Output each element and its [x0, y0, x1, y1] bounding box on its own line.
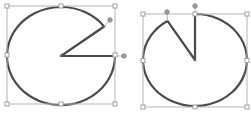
resize-handle-n[interactable]: [193, 12, 197, 16]
angle-adjust-handle[interactable]: [108, 18, 112, 22]
resize-handle-nw[interactable]: [5, 4, 9, 8]
pie-shape-left[interactable]: [5, 4, 126, 106]
resize-handle-nw[interactable]: [141, 12, 145, 16]
resize-handle-ne[interactable]: [245, 12, 249, 16]
angle-adjust-handle[interactable]: [165, 10, 169, 14]
resize-handle-s[interactable]: [193, 105, 197, 109]
resize-handle-sw[interactable]: [141, 105, 145, 109]
angle-adjust-handle[interactable]: [122, 54, 126, 58]
resize-handle-sw[interactable]: [5, 102, 9, 106]
angle-adjust-handle[interactable]: [193, 4, 197, 8]
resize-handle-e[interactable]: [113, 53, 117, 57]
pie-shape-right[interactable]: [141, 4, 249, 109]
resize-handle-se[interactable]: [113, 102, 117, 106]
center-point-icon: [60, 55, 63, 58]
drawing-canvas[interactable]: [0, 0, 251, 114]
resize-handle-n[interactable]: [59, 4, 63, 8]
resize-handle-e[interactable]: [245, 59, 249, 63]
center-point-icon: [194, 59, 197, 62]
resize-handle-s[interactable]: [59, 102, 63, 106]
shapes-layer: [5, 4, 249, 109]
resize-handle-w[interactable]: [5, 53, 9, 57]
resize-handle-ne[interactable]: [113, 4, 117, 8]
resize-handle-w[interactable]: [141, 59, 145, 63]
resize-handle-se[interactable]: [245, 105, 249, 109]
